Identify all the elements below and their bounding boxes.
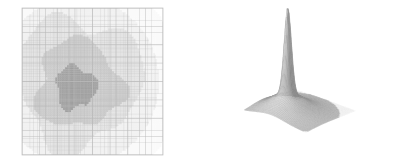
surface-plot-svg: [198, 0, 396, 163]
surface-background: [198, 0, 396, 163]
amr-grid-svg: [0, 0, 198, 163]
figure-container: [0, 0, 396, 163]
surface-plot-panel: [198, 0, 396, 163]
amr-grid-panel: [0, 0, 198, 163]
